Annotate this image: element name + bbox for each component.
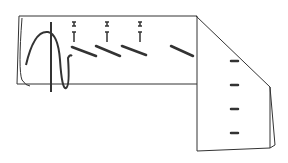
gathering-thread xyxy=(26,32,72,88)
diagram xyxy=(0,0,288,163)
fabric-left-curl xyxy=(20,18,30,86)
pin-icon xyxy=(105,22,109,42)
stitch xyxy=(122,46,146,55)
stitch xyxy=(96,46,120,56)
pin-icon xyxy=(138,22,142,42)
folded-panel-outline xyxy=(196,16,270,151)
stitch xyxy=(171,46,193,56)
pin-icon xyxy=(72,22,76,42)
folded-panel-edge xyxy=(270,87,275,148)
stitch xyxy=(72,47,96,56)
